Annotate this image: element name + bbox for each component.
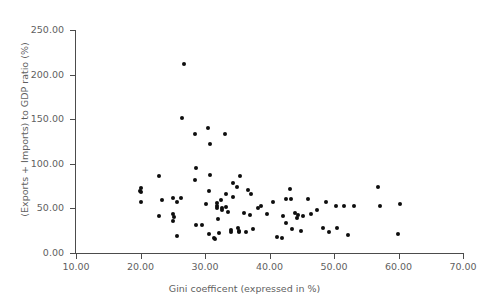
data-point [271, 200, 275, 204]
data-point [139, 200, 143, 204]
data-point [324, 200, 328, 204]
data-point [342, 204, 346, 208]
data-point [301, 214, 305, 218]
data-points-layer [76, 30, 463, 253]
data-point [175, 200, 179, 204]
y-axis-tick-label: 0.00 [12, 248, 64, 258]
data-point [335, 226, 339, 230]
data-point [248, 213, 252, 217]
x-axis-tick-label: 20.00 [111, 262, 171, 272]
data-point [315, 208, 319, 212]
data-point [175, 234, 179, 238]
data-point [246, 188, 250, 192]
data-point [309, 212, 313, 216]
data-point [157, 214, 161, 218]
plot-area [76, 30, 463, 253]
x-axis-tick [270, 254, 271, 259]
data-point [231, 195, 235, 199]
data-point [224, 192, 228, 196]
x-axis-tick-label: 70.00 [433, 262, 489, 272]
data-point [275, 235, 279, 239]
data-point [244, 230, 248, 234]
y-axis-tick [70, 208, 75, 209]
data-point [327, 230, 331, 234]
data-point [193, 178, 197, 182]
data-point [306, 197, 310, 201]
data-point [139, 190, 143, 194]
data-point [378, 204, 382, 208]
data-point [398, 202, 402, 206]
data-point [284, 197, 288, 201]
data-point [288, 187, 292, 191]
data-point [193, 132, 197, 136]
data-point [160, 198, 164, 202]
data-point [376, 185, 380, 189]
x-axis-tick [334, 254, 335, 259]
data-point [179, 196, 183, 200]
x-axis-tick [141, 254, 142, 259]
data-point [194, 166, 198, 170]
data-point [224, 205, 228, 209]
data-point [249, 192, 253, 196]
x-axis-tick-label: 60.00 [369, 262, 429, 272]
data-point [213, 237, 217, 241]
data-point [321, 226, 325, 230]
x-axis-tick [463, 254, 464, 259]
x-axis-title: Gini coefficent (expressed in %) [0, 283, 489, 294]
x-axis-tick [399, 254, 400, 259]
data-point [226, 210, 230, 214]
data-point [296, 213, 300, 217]
data-point [238, 174, 242, 178]
y-axis-tick [70, 253, 75, 254]
data-point [237, 230, 241, 234]
data-point [200, 223, 204, 227]
data-point [219, 198, 223, 202]
data-point [171, 219, 175, 223]
data-point [207, 189, 211, 193]
data-point [216, 217, 220, 221]
data-point [235, 185, 239, 189]
data-point [242, 211, 246, 215]
y-axis-tick [70, 75, 75, 76]
x-axis-tick [76, 254, 77, 259]
data-point [256, 206, 260, 210]
data-point [346, 233, 350, 237]
data-point [280, 236, 284, 240]
data-point [281, 214, 285, 218]
data-point [180, 116, 184, 120]
x-axis-tick [205, 254, 206, 259]
data-point [251, 227, 255, 231]
data-point [194, 223, 198, 227]
x-axis-tick-label: 50.00 [304, 262, 364, 272]
y-axis-title: (Exports + Imports) to GDP ratio (%) [19, 20, 30, 240]
data-point [206, 126, 210, 130]
x-axis-tick-label: 10.00 [46, 262, 106, 272]
data-point [217, 231, 221, 235]
data-point [229, 230, 233, 234]
data-point [215, 206, 219, 210]
data-point [396, 232, 400, 236]
data-point [208, 142, 212, 146]
y-axis-tick [70, 164, 75, 165]
data-point [352, 204, 356, 208]
data-point [207, 232, 211, 236]
data-point [290, 227, 294, 231]
data-point [289, 197, 293, 201]
data-point [157, 174, 161, 178]
data-point [265, 212, 269, 216]
data-point [231, 181, 235, 185]
data-point [284, 221, 288, 225]
data-point [299, 229, 303, 233]
data-point [334, 204, 338, 208]
y-axis-tick [70, 30, 75, 31]
x-axis-tick-label: 30.00 [175, 262, 235, 272]
y-axis-tick [70, 119, 75, 120]
data-point [182, 62, 186, 66]
data-point [223, 132, 227, 136]
data-point [208, 173, 212, 177]
data-point [171, 196, 175, 200]
x-axis-tick-label: 40.00 [240, 262, 300, 272]
scatter-chart: 0.0050.00100.00150.00200.00250.00 10.002… [0, 0, 489, 307]
data-point [204, 202, 208, 206]
